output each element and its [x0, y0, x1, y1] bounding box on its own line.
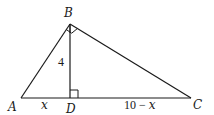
label-ad-length: x	[41, 98, 48, 112]
label-bd-length: 4	[58, 55, 64, 69]
side-bc	[70, 24, 191, 98]
label-a: A	[7, 100, 17, 114]
label-dc-variable: x	[149, 98, 156, 112]
label-c: C	[193, 98, 202, 112]
label-dc-length: 10 − x	[124, 98, 156, 112]
triangle-diagram: B A D C 4 x 10 − x	[0, 0, 214, 115]
label-b: B	[63, 6, 73, 20]
diagram-svg: B A D C 4 x 10 − x	[0, 0, 214, 115]
right-angle-mark-d	[70, 90, 78, 98]
right-angle-mark-b	[66, 29, 77, 34]
label-dc-number: 10 −	[124, 98, 149, 112]
label-d: D	[65, 102, 76, 115]
